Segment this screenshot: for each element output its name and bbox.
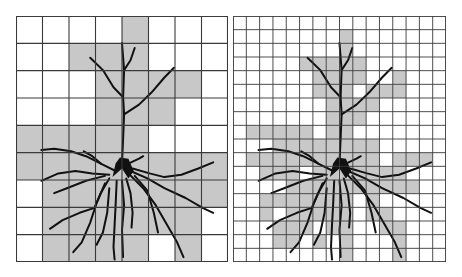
shaded-cell [313,139,326,153]
shaded-cell [366,139,379,153]
shaded-cell [175,71,202,98]
shaded-cell [96,207,123,234]
shaded-cell [202,180,229,207]
fine-grid-panel [233,16,446,262]
shaded-cell [406,180,419,194]
shaded-cell [326,84,339,98]
shaded-cell [122,98,149,125]
shaded-cell [69,125,96,152]
shaded-cell [300,57,313,71]
shaded-cell [273,153,286,167]
shaded-cell [69,43,96,70]
shaded-cell [273,125,286,139]
shaded-cell [353,57,366,71]
shaded-cell [149,180,176,207]
shaded-cell [96,71,123,98]
shaded-cell [353,71,366,85]
fine-grid [233,16,446,262]
shaded-cell [379,84,392,98]
shaded-cell [122,16,149,43]
shaded-cell [122,125,149,152]
shaded-cell [43,207,70,234]
shaded-cell [286,221,299,235]
shaded-cell [96,125,123,152]
shaded-cell [43,235,70,262]
shaded-cell [326,125,339,139]
shaded-cell [393,180,406,194]
coarse-grid [16,16,228,262]
shaded-cell [393,221,406,235]
shaded-cell [260,153,273,167]
shaded-cell [286,235,299,249]
shaded-cell [175,180,202,207]
shaded-cell [246,153,259,167]
shaded-cell [16,153,43,180]
shaded-cell [300,125,313,139]
shaded-cell [69,180,96,207]
shaded-cell [273,194,286,208]
shaded-cell [366,84,379,98]
shaded-cell [326,112,339,126]
shaded-cell [393,84,406,98]
shaded-cell [149,98,176,125]
shaded-cell [16,125,43,152]
shaded-cell [43,153,70,180]
shaded-cell [340,235,353,249]
shaded-cell [393,153,406,167]
shaded-cell [122,71,149,98]
shaded-cell [353,112,366,126]
shaded-cell [273,235,286,249]
shaded-cell [393,71,406,85]
shaded-cell [260,194,273,208]
shaded-cell [340,221,353,235]
shaded-cell [175,207,202,234]
shaded-cell [366,153,379,167]
shaded-cell [260,125,273,139]
shaded-cell [340,30,353,44]
shaded-cell [326,139,339,153]
shaded-cell [326,98,339,112]
shaded-cell [286,125,299,139]
shaded-cell [246,125,259,139]
shaded-cell [326,57,339,71]
shaded-cell [43,180,70,207]
shaded-cell [313,84,326,98]
shaded-cell [366,98,379,112]
shaded-cell [122,180,149,207]
shaded-cell [96,98,123,125]
shaded-cell [122,235,149,262]
shaded-cell [260,207,273,221]
shaded-cell [406,153,419,167]
shaded-cell [149,71,176,98]
shaded-cell [286,194,299,208]
shaded-cell [122,207,149,234]
shaded-cell [286,166,299,180]
shaded-cell [300,194,313,208]
shaded-cell [353,139,366,153]
coarse-grid-panel [16,16,228,262]
